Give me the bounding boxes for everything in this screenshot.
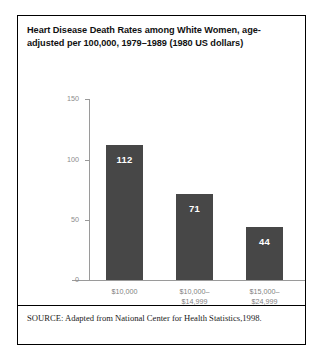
x-label-3-line-1: $15,000– bbox=[229, 287, 300, 297]
bar-1-value: 112 bbox=[106, 154, 143, 165]
x-label-1-line-1: $10,000 bbox=[89, 287, 160, 297]
x-label-3: $15,000– $24,999 bbox=[229, 287, 300, 306]
source-citation: Adapted from National Center for Health … bbox=[65, 313, 262, 323]
y-axis-line bbox=[89, 99, 90, 281]
x-axis-baseline bbox=[72, 280, 305, 281]
figure-panel: Heart Disease Death Rates among White Wo… bbox=[17, 15, 306, 345]
y-tick-mark-0 bbox=[85, 280, 89, 281]
bar-2-value: 71 bbox=[176, 203, 213, 214]
y-tick-label-100: 100 bbox=[49, 156, 79, 164]
x-label-2: $10,000– $14,999 bbox=[159, 287, 230, 306]
y-tick-mark-150 bbox=[85, 99, 89, 100]
figure-title: Heart Disease Death Rates among White Wo… bbox=[27, 24, 289, 50]
x-label-2-line-1: $10,000– bbox=[159, 287, 230, 297]
y-tick-mark-100 bbox=[85, 160, 89, 161]
bar-2: 71 bbox=[176, 194, 213, 280]
bar-chart: 150 100 50 0 112 $10,000 71 $10,000– $14… bbox=[18, 71, 305, 319]
source-label: SOURCE: bbox=[27, 313, 63, 323]
y-tick-mark-50 bbox=[85, 220, 89, 221]
y-tick-label-150: 150 bbox=[49, 95, 79, 103]
source-note: SOURCE: Adapted from National Center for… bbox=[27, 313, 295, 324]
x-label-1: $10,000 bbox=[89, 287, 160, 297]
source-divider bbox=[18, 305, 305, 306]
y-tick-label-50: 50 bbox=[49, 216, 79, 224]
bar-1: 112 bbox=[106, 145, 143, 280]
bar-3-value: 44 bbox=[246, 236, 283, 247]
y-tick-label-0: 0 bbox=[49, 276, 79, 284]
title-line-2: adjusted per 100,000, 1979–1989 (1980 US… bbox=[27, 37, 289, 50]
title-line-1: Heart Disease Death Rates among White Wo… bbox=[27, 24, 289, 37]
bar-3: 44 bbox=[246, 227, 283, 280]
